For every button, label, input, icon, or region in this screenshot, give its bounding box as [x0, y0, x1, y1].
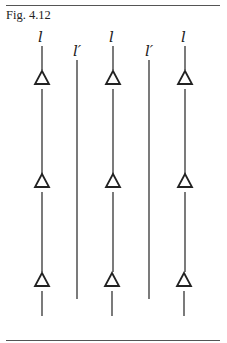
triangle-icon	[106, 71, 120, 84]
label-l-prime-2: l′	[145, 42, 154, 60]
line-l-2	[105, 46, 120, 316]
triangle-icon	[105, 273, 119, 286]
label-l-prime-1: l′	[73, 42, 82, 60]
triangle-icon	[35, 273, 49, 286]
triangle-icon	[106, 174, 120, 187]
triangle-icon	[177, 273, 191, 286]
triangle-icon	[35, 71, 49, 84]
label-l-2: l	[109, 28, 114, 46]
label-l-1: l	[38, 28, 43, 46]
triangle-icon	[178, 174, 192, 187]
triangle-icon	[35, 174, 49, 187]
triangle-icon	[178, 71, 192, 84]
bottom-rule	[6, 340, 220, 341]
figure-diagram: l l′ l l′ l	[0, 0, 227, 343]
label-l-3: l	[181, 28, 186, 46]
line-l-3	[177, 46, 192, 316]
line-l-1	[35, 46, 49, 316]
